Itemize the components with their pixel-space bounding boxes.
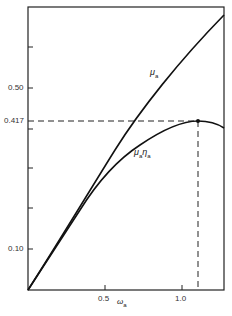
max-point-marker [196,119,200,123]
max-guides [28,121,198,290]
y-axis-ticks [28,47,33,249]
chart-canvas [0,0,232,316]
y-tick-label-0.417: 0.417 [4,117,24,125]
x-tick-label-1.0: 1.0 [175,295,186,303]
y-tick-label-0.50: 0.50 [8,84,24,92]
y-tick-label-0.10: 0.10 [8,245,24,253]
mu-a-eta-a-label: μaηa [134,148,151,159]
x-axis-ticks [105,285,182,290]
x-tick-label-0.5: 0.5 [98,295,109,303]
plot-frame [28,7,224,290]
x-axis-label: ωa [117,298,127,308]
mu-a-eta-a-curve [28,121,224,290]
mu-a-label: μa [150,68,158,79]
mu-a-curve [28,15,224,290]
